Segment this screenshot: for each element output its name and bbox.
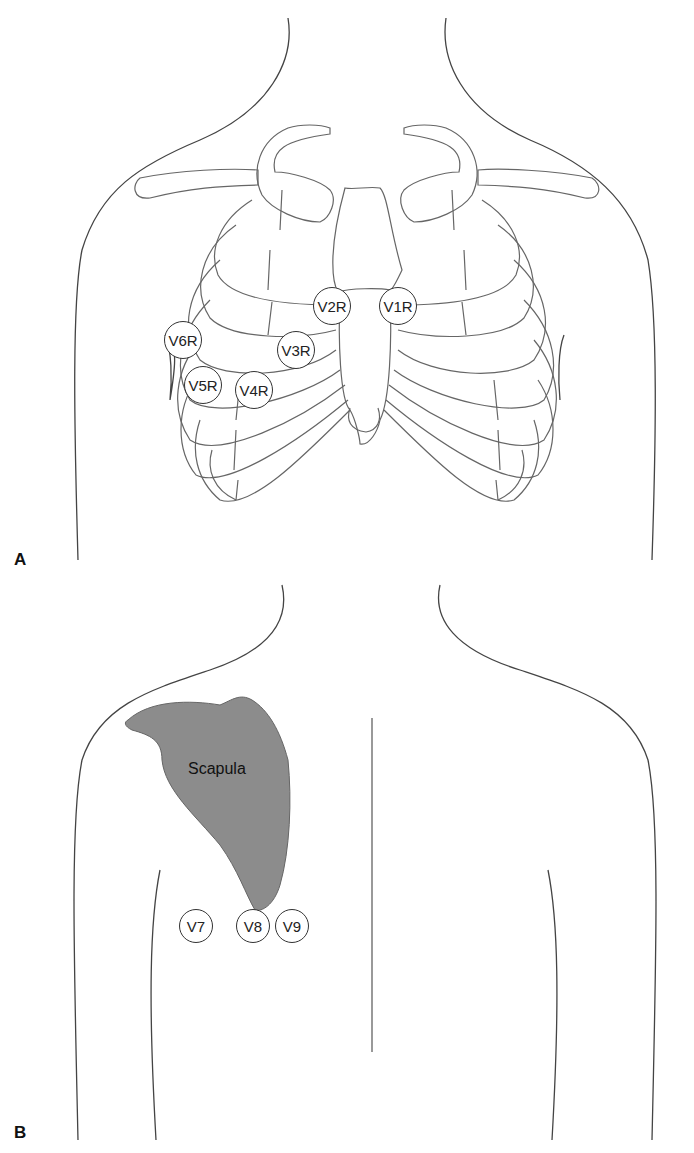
scapula-shape (125, 697, 290, 910)
rib-cage-left (384, 190, 556, 501)
lead-v6r: V6R (164, 321, 202, 359)
clavicles (135, 169, 599, 198)
panel-label-b: B (14, 1123, 26, 1143)
ecg-lead-diagram (0, 0, 694, 1153)
lead-v2r: V2R (313, 287, 351, 325)
lead-v3r: V3R (277, 331, 315, 369)
lead-v9: V9 (275, 909, 309, 943)
lead-v1r: V1R (379, 287, 417, 325)
scapula-label: Scapula (188, 760, 246, 778)
panel-label-a: A (14, 550, 26, 570)
posterior-body-outline (74, 585, 656, 1140)
lead-v8: V8 (236, 909, 270, 943)
lead-v4r: V4R (235, 371, 273, 409)
rib-cage-right (178, 190, 350, 501)
lead-v7: V7 (179, 909, 213, 943)
lead-v5r: V5R (184, 366, 222, 404)
first-ribs (257, 125, 477, 222)
